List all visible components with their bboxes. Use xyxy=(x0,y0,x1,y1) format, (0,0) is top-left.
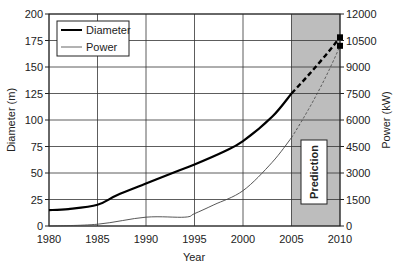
diameter-line xyxy=(49,94,292,211)
x-tick-label: 2005 xyxy=(279,233,303,245)
power-end-marker xyxy=(337,43,343,49)
y-tick-label: 175 xyxy=(25,35,43,47)
y-tick-label: 100 xyxy=(25,114,43,126)
x-tick-label: 1980 xyxy=(37,233,61,245)
y-tick-label: 0 xyxy=(37,220,43,232)
y2-tick-label: 9000 xyxy=(346,61,370,73)
y-tick-label: 200 xyxy=(25,8,43,20)
legend-power-label: Power xyxy=(86,41,118,53)
y2-tick-label: 12000 xyxy=(346,8,377,20)
x-tick-label: 2000 xyxy=(231,233,255,245)
y2-tick-label: 7500 xyxy=(346,88,370,100)
y2-tick-label: 3000 xyxy=(346,167,370,179)
x-tick-label: 1990 xyxy=(134,233,158,245)
y-tick-label: 150 xyxy=(25,61,43,73)
y2-tick-label: 6000 xyxy=(346,114,370,126)
y2-tick-label: 4500 xyxy=(346,141,370,153)
prediction-label: Prediction xyxy=(308,145,320,199)
y2-axis-ticks: 01500300045006000750090001050012000 xyxy=(340,8,377,232)
x-axis-ticks: 1980198519901995200020052010 xyxy=(37,233,352,245)
y2-tick-label: 0 xyxy=(346,220,352,232)
y-tick-label: 75 xyxy=(31,141,43,153)
y-axis-title: Diameter (m) xyxy=(5,88,17,152)
x-tick-label: 1995 xyxy=(182,233,206,245)
power-line xyxy=(49,138,292,226)
y2-tick-label: 1500 xyxy=(346,194,370,206)
x-axis-title: Year xyxy=(183,251,206,263)
turbine-growth-chart: 1980198519901995200020052010 02550751001… xyxy=(0,0,400,266)
y-axis-ticks: 0255075100125150175200 xyxy=(25,8,49,232)
y2-axis-title: Power (kW) xyxy=(380,91,392,148)
y-tick-label: 125 xyxy=(25,88,43,100)
prediction-label-box: Prediction xyxy=(301,140,327,204)
legend-diameter-label: Diameter xyxy=(86,24,131,36)
y2-tick-label: 10500 xyxy=(346,35,377,47)
diameter-end-marker xyxy=(337,34,343,40)
y-tick-label: 25 xyxy=(31,194,43,206)
x-tick-label: 1985 xyxy=(85,233,109,245)
legend: Diameter Power xyxy=(57,21,131,56)
y-tick-label: 50 xyxy=(31,167,43,179)
x-tick-label: 2010 xyxy=(328,233,352,245)
